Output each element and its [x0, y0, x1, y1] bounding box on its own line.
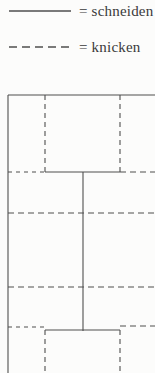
- worksheet-page: = schneiden = knicken: [0, 0, 155, 373]
- fold-cut-diagram: [0, 0, 155, 373]
